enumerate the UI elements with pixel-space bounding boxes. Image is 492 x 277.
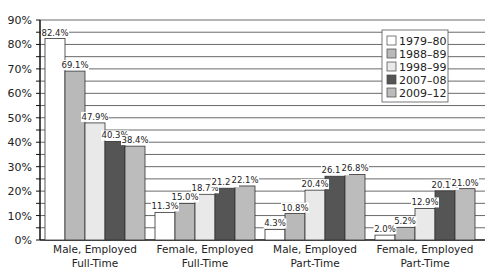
category-label: Full-Time: [72, 257, 118, 269]
bar: [155, 212, 175, 240]
data-label: 82.4%: [41, 28, 68, 38]
y-tick-label: 50%: [8, 112, 32, 125]
category-label: Part-Time: [400, 257, 449, 269]
category-labels: Male, EmployedFull-TimeFemale, EmployedF…: [53, 243, 473, 269]
legend-label: 1998–99: [399, 61, 447, 74]
data-label: 21.0%: [451, 178, 478, 188]
y-tick-label: 70%: [8, 63, 32, 76]
legend-swatch: [387, 49, 396, 58]
y-tick-label: 10%: [8, 210, 32, 223]
data-label: 20.4%: [301, 179, 328, 189]
legend-swatch: [387, 36, 396, 45]
bar: [345, 174, 365, 240]
data-label: 15.0%: [171, 192, 198, 202]
legend-swatch: [387, 88, 396, 97]
data-label: 69.1%: [61, 60, 88, 70]
category-label: Part-Time: [290, 257, 339, 269]
bar-chart: 0%10%20%30%40%50%60%70%80%90% 82.4%11.3%…: [0, 0, 492, 277]
data-label: 11.3%: [151, 201, 178, 211]
y-tick-label: 0%: [15, 234, 32, 247]
category-label: Full-Time: [182, 257, 228, 269]
data-label: 4.3%: [264, 218, 286, 228]
y-tick-label: 30%: [8, 161, 32, 174]
data-label: 12.9%: [411, 197, 438, 207]
bar: [215, 188, 235, 240]
legend-label: 2007–08: [399, 74, 447, 87]
y-tick-label: 40%: [8, 136, 32, 149]
category-label: Female, Employed: [377, 243, 474, 255]
bar: [105, 141, 125, 240]
bar: [395, 227, 415, 240]
data-label: 38.4%: [121, 135, 148, 145]
y-tick-label: 20%: [8, 185, 32, 198]
legend-label: 1988–89: [399, 48, 447, 61]
data-label: 47.9%: [81, 112, 108, 122]
legend: 1979–801988–891998–992007–082009–12: [382, 30, 448, 102]
bar: [455, 189, 475, 240]
category-label: Female, Employed: [157, 243, 254, 255]
data-label: 5.2%: [394, 216, 416, 226]
bar: [415, 208, 435, 240]
y-tick-label: 80%: [8, 38, 32, 51]
bar: [375, 235, 395, 240]
data-label: 2.0%: [374, 224, 396, 234]
data-label: 26.8%: [341, 163, 368, 173]
y-tick-label: 90%: [8, 14, 32, 27]
data-label: 10.8%: [281, 203, 308, 213]
bar: [285, 214, 305, 240]
bar: [305, 190, 325, 240]
category-label: Male, Employed: [273, 243, 357, 255]
bar: [65, 71, 85, 240]
legend-label: 2009–12: [399, 87, 447, 100]
category-label: Male, Employed: [53, 243, 137, 255]
legend-swatch: [387, 62, 396, 71]
bar: [265, 229, 285, 240]
data-label: 22.1%: [231, 175, 258, 185]
legend-label: 1979–80: [399, 35, 447, 48]
legend-swatch: [387, 75, 396, 84]
y-tick-label: 60%: [8, 87, 32, 100]
bar: [125, 146, 145, 240]
bar: [235, 186, 255, 240]
